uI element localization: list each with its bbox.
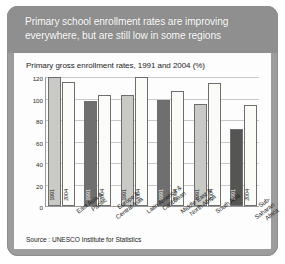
y-axis-tick-label: 60: [36, 139, 43, 146]
source-note: Source : UNESCO Institute for Statistics: [26, 236, 141, 243]
bar-year-label: 2004: [244, 189, 250, 201]
banner-title: Primary school enrollment rates are impr…: [25, 15, 264, 42]
plot-area: 020406080100120 199120041991200419912004…: [45, 77, 259, 207]
bar[interactable]: 1991: [48, 77, 61, 206]
chart-title: Primary gross enrollment rates, 1991 and…: [26, 61, 205, 70]
bar-series-container: 1991200419912004199120041991200419912004…: [46, 77, 259, 206]
y-axis-tick-label: 0: [40, 204, 43, 211]
bar[interactable]: 2004: [244, 105, 257, 206]
y-axis-tick-label: 120: [33, 75, 43, 82]
bar[interactable]: 1991: [84, 101, 97, 206]
bar[interactable]: 1991: [121, 95, 134, 206]
y-axis-tick-label: 100: [33, 96, 43, 103]
bar[interactable]: 2004: [98, 95, 111, 206]
bar-group: 19912004: [230, 77, 257, 206]
figure-banner: Primary school enrollment rates are impr…: [7, 6, 278, 53]
x-axis-labels: East Asia & PacificEurope & Central Asia…: [45, 209, 258, 249]
bar-group: 19912004: [48, 77, 75, 206]
bar-year-label: 1991: [49, 189, 55, 201]
bar-group: 19912004: [121, 77, 148, 206]
bar-year-label: 2004: [63, 189, 69, 201]
y-axis-tick-label: 80: [36, 118, 43, 125]
y-axis-tick-label: 20: [36, 182, 43, 189]
bar[interactable]: 2004: [62, 82, 75, 206]
chart-card: Primary gross enrollment rates, 1991 and…: [14, 53, 271, 249]
bar[interactable]: 2004: [135, 77, 148, 206]
figure-frame: Primary school enrollment rates are impr…: [7, 6, 278, 256]
bar-group: 19912004: [84, 77, 111, 206]
y-axis-tick-label: 40: [36, 161, 43, 168]
